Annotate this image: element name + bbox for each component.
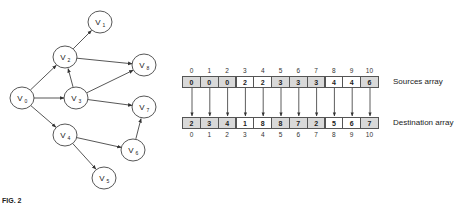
destination-index-0: 0: [182, 131, 201, 138]
destination-index-row: 012345678910: [183, 131, 379, 138]
destination-index-7: 7: [307, 131, 326, 138]
destination-cell-9: 6: [342, 117, 361, 129]
mapping-arrows: [0, 0, 456, 204]
destination-array: 23418872567: [183, 117, 379, 129]
figure-caption: FIG. 2: [2, 197, 21, 204]
destination-cell-7: 2: [307, 117, 326, 129]
destination-index-9: 9: [342, 131, 361, 138]
destination-index-10: 10: [360, 131, 379, 138]
destination-index-6: 6: [289, 131, 308, 138]
destination-cell-4: 8: [253, 117, 272, 129]
destination-cell-0: 2: [182, 117, 201, 129]
destination-index-4: 4: [253, 131, 272, 138]
destination-index-3: 3: [236, 131, 255, 138]
destination-cell-2: 4: [218, 117, 237, 129]
destination-index-1: 1: [200, 131, 219, 138]
destination-cell-8: 5: [325, 117, 344, 129]
destination-index-2: 2: [218, 131, 237, 138]
destination-cell-6: 7: [289, 117, 308, 129]
destination-cell-5: 8: [271, 117, 290, 129]
destination-cell-1: 3: [200, 117, 219, 129]
destination-array-label: Destination array: [393, 118, 453, 127]
destination-index-5: 5: [271, 131, 290, 138]
destination-cell-10: 7: [360, 117, 379, 129]
destination-index-8: 8: [325, 131, 344, 138]
destination-cell-3: 1: [236, 117, 255, 129]
